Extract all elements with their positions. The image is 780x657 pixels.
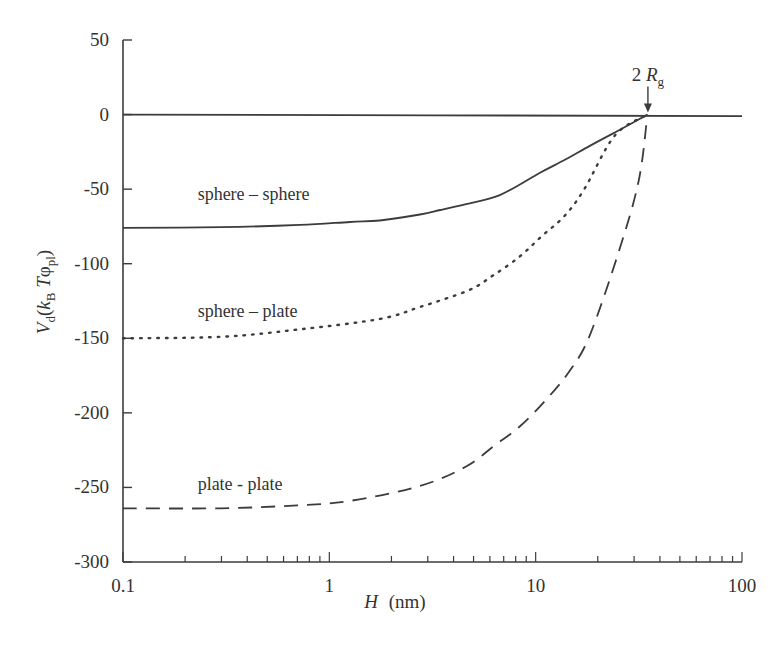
label-sphere-sphere: sphere – sphere: [198, 184, 310, 204]
label-plate-plate: plate - plate: [198, 474, 283, 494]
y-axis-label: Vd(kB Tφpl): [33, 250, 58, 334]
y-tick-label: -300: [74, 551, 109, 572]
x-tick-label: 10: [526, 575, 545, 596]
curve-labels: sphere – spheresphere – plateplate - pla…: [198, 184, 310, 495]
x-tick-label: 1: [325, 575, 335, 596]
y-tick-label: 50: [90, 29, 109, 50]
x-tick-label: 0.1: [111, 575, 135, 596]
label-sphere-plate: sphere – plate: [198, 301, 298, 321]
y-tick-label: -250: [74, 476, 109, 497]
x-axis-label: H (nm): [363, 591, 425, 613]
y-tick-label: -100: [74, 253, 109, 274]
y-tick-label: -150: [74, 327, 109, 348]
y-tick-label: -200: [74, 402, 109, 423]
y-tick-label: 0: [100, 104, 110, 125]
x-tick-label: 100: [728, 575, 757, 596]
curve-sphere-sphere: [123, 115, 647, 228]
y-tick-label: -50: [84, 178, 109, 199]
annotation-2rg: 2 Rg: [632, 64, 665, 113]
arrow-down-icon: [644, 104, 652, 113]
chart-area: 500-50-100-150-200-250-3000.1110100 sphe…: [0, 0, 780, 657]
annotation-text: 2 Rg: [632, 64, 665, 89]
curve-zero-line: [123, 115, 742, 117]
svg-text:Vd(kB Tφpl): Vd(kB Tφpl): [33, 250, 58, 334]
